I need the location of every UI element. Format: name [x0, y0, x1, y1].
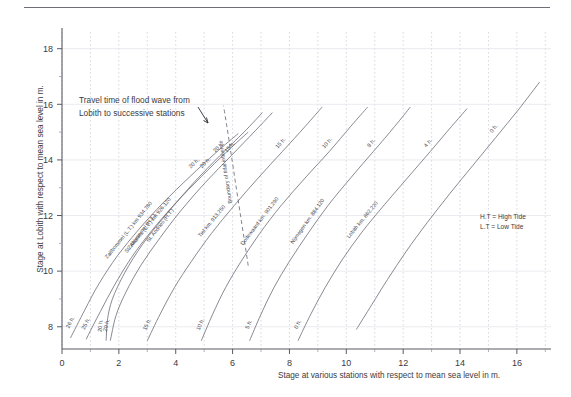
- legend-low-tide: L.T = Low Tide: [480, 222, 526, 232]
- travel-time-label: 15 h.: [274, 136, 287, 150]
- x-tick-label: 16: [512, 358, 522, 368]
- x-tick-label: 12: [398, 358, 408, 368]
- x-axis-title: Stage at various stations with respect t…: [278, 371, 500, 380]
- travel-time-label-bottom: 25 h.: [80, 316, 91, 330]
- x-tick-label: 0: [59, 358, 64, 368]
- station-curve-label: Dodewaard km. 901.290: [239, 196, 280, 246]
- travel-time-label: 0 h.: [488, 122, 499, 133]
- travel-time-label: 4 h.: [423, 137, 434, 148]
- grid-layer: [62, 32, 551, 349]
- x-tick-label: 14: [455, 358, 465, 368]
- x-tick-label: 2: [116, 358, 121, 368]
- plot-svg: 810121416180246810121416 Zaltbommel (L.T…: [0, 0, 571, 397]
- station-curve-label: Nijmegen km. 884.120: [289, 197, 325, 244]
- x-tick-label: 10: [341, 358, 351, 368]
- x-tick-label: 4: [173, 358, 178, 368]
- station-curve: [147, 107, 322, 341]
- x-tick-label: 6: [230, 358, 235, 368]
- station-curve-label: Lobith km. 862.220: [345, 200, 379, 239]
- travel-time-label-bottom: 0 h.: [293, 318, 303, 329]
- legend-high-tide: H.T = High Tide: [480, 212, 526, 222]
- y-axis-title: Stage at Lobith with respect to mean sea…: [29, 49, 47, 309]
- travel-time-label-bottom: 5 h.: [244, 318, 253, 329]
- curve-labels-layer: Zaltbommel (L.T.) km 934.78020 h.26 h.Za…: [65, 122, 500, 332]
- flood-wave-rating-chart: 810121416180246810121416 Zaltbommel (L.T…: [0, 0, 571, 397]
- travel-time-label: 8 h.: [366, 137, 377, 148]
- travel-time-label: 10 h.: [321, 136, 334, 150]
- annotation-arrow: [198, 107, 208, 123]
- annotation-text: Travel time of flood wave from Lobith to…: [79, 94, 190, 120]
- annotation-line-2: Lobith to successive stations: [79, 107, 190, 120]
- annotation-line-1: Travel time of flood wave from: [79, 94, 190, 107]
- y-tick-label: 8: [48, 322, 53, 332]
- legend: H.T = High Tide L.T = Low Tide: [480, 212, 526, 232]
- x-tick-label: 8: [287, 358, 292, 368]
- travel-time-label: 20 h.: [187, 156, 201, 169]
- travel-time-label-bottom: 15 h.: [141, 317, 152, 331]
